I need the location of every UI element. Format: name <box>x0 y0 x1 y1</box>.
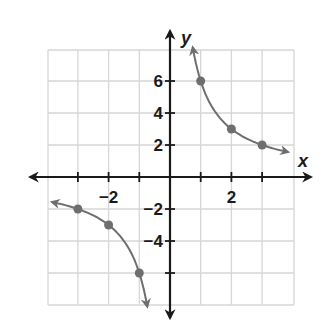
y-tick-label: −2 <box>144 200 163 219</box>
curve-left-branch <box>52 202 148 307</box>
y-tick-label: 6 <box>154 72 163 91</box>
x-tick-label: −2 <box>99 188 118 207</box>
data-point <box>196 77 205 86</box>
data-point <box>104 221 113 230</box>
data-point <box>73 205 82 214</box>
x-axis-label: x <box>297 151 309 171</box>
y-tick-label: −4 <box>144 232 164 251</box>
y-tick-label: 2 <box>154 136 163 155</box>
axes <box>30 31 311 318</box>
graph-canvas: −22642−2−4 x y <box>0 0 323 333</box>
y-axis-label: y <box>180 28 192 48</box>
data-point <box>227 125 236 134</box>
y-tick-label: 4 <box>154 104 164 123</box>
curve-right-branch <box>193 47 289 152</box>
data-point <box>135 269 144 278</box>
data-point <box>258 141 267 150</box>
tick-labels: −22642−2−4 <box>99 72 236 251</box>
x-tick-label: 2 <box>227 188 236 207</box>
